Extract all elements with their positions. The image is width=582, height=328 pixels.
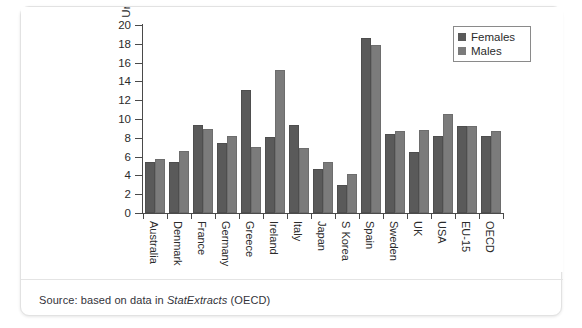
y-tick-label: 12 bbox=[21, 95, 131, 105]
legend-item-males[interactable]: Males bbox=[458, 44, 525, 58]
bar-males-france[interactable] bbox=[203, 129, 213, 213]
bar-females-eu-15[interactable] bbox=[457, 126, 467, 213]
bar-females-italy[interactable] bbox=[289, 125, 299, 213]
y-tick-mark bbox=[135, 119, 143, 120]
bar-males-usa[interactable] bbox=[443, 114, 453, 213]
bar-males-eu-15[interactable] bbox=[467, 126, 477, 213]
bar-males-australia[interactable] bbox=[155, 159, 165, 213]
x-axis-label-oecd: OECD bbox=[483, 221, 496, 272]
y-tick-mark bbox=[135, 175, 143, 176]
x-axis-line bbox=[142, 213, 504, 214]
x-axis-label-uk: UK bbox=[411, 221, 424, 272]
source-note-prefix: Source: based on data in bbox=[39, 294, 164, 306]
bar-females-oecd[interactable] bbox=[481, 136, 491, 213]
x-axis-label-japan: Japan bbox=[315, 221, 328, 272]
bar-males-denmark[interactable] bbox=[179, 151, 189, 213]
y-tick-mark bbox=[135, 194, 143, 195]
y-tick-label-text: 16 bbox=[31, 58, 131, 68]
x-label-text: OECD bbox=[484, 221, 496, 253]
x-label-text: Spain bbox=[364, 221, 376, 249]
x-axis-label-france: France bbox=[195, 221, 208, 272]
x-label-text: Greece bbox=[244, 221, 256, 257]
y-tick-label: 8 bbox=[21, 133, 131, 143]
x-axis-label-germany: Germany bbox=[219, 221, 232, 272]
bar-females-greece[interactable] bbox=[241, 90, 251, 213]
bar-males-japan[interactable] bbox=[323, 162, 333, 213]
x-axis-label-sweden: Sweden bbox=[387, 221, 400, 272]
x-label-text: Ireland bbox=[268, 221, 280, 255]
y-tick-label: 2 bbox=[21, 189, 131, 199]
bar-females-japan[interactable] bbox=[313, 169, 323, 213]
bar-females-sweden[interactable] bbox=[385, 134, 395, 213]
bar-females-spain[interactable] bbox=[361, 38, 371, 213]
figure-card: Unemployed as % of workforce 02468101214… bbox=[20, 6, 562, 316]
legend-swatch-males-icon bbox=[458, 47, 466, 55]
bar-females-germany[interactable] bbox=[217, 143, 227, 213]
y-tick-mark bbox=[135, 44, 143, 45]
x-tick-mark bbox=[167, 214, 168, 219]
legend-swatch-females-icon bbox=[458, 33, 466, 41]
x-tick-mark bbox=[503, 214, 504, 219]
bar-females-ireland[interactable] bbox=[265, 137, 275, 213]
x-label-text: S Korea bbox=[340, 221, 352, 261]
bar-males-s-korea[interactable] bbox=[347, 174, 357, 213]
chart-legend[interactable]: Females Males bbox=[453, 26, 531, 62]
x-label-text: Germany bbox=[220, 221, 232, 266]
x-label-text: Denmark bbox=[172, 221, 184, 266]
x-axis-label-italy: Italy bbox=[291, 221, 304, 272]
x-label-text: EU-15 bbox=[460, 221, 472, 252]
y-tick-mark bbox=[135, 25, 143, 26]
x-axis-label-usa: USA bbox=[435, 221, 448, 272]
source-note-dataset: StatExtracts bbox=[167, 294, 228, 306]
x-label-text: France bbox=[196, 221, 208, 255]
x-tick-mark bbox=[311, 214, 312, 219]
y-tick-label-text: 4 bbox=[31, 170, 131, 180]
y-tick-label-text: 10 bbox=[31, 114, 131, 124]
y-tick-mark bbox=[135, 63, 143, 64]
y-tick-label-text: 20 bbox=[31, 20, 131, 30]
x-tick-mark bbox=[263, 214, 264, 219]
x-tick-mark bbox=[143, 214, 144, 219]
y-tick-label: 14 bbox=[21, 76, 131, 86]
legend-item-females[interactable]: Females bbox=[458, 30, 525, 44]
bar-males-oecd[interactable] bbox=[491, 131, 501, 213]
bar-females-denmark[interactable] bbox=[169, 162, 179, 213]
x-axis-label-eu-15: EU-15 bbox=[459, 221, 472, 272]
bar-males-italy[interactable] bbox=[299, 148, 309, 213]
y-tick-label: 4 bbox=[21, 170, 131, 180]
x-tick-mark bbox=[335, 214, 336, 219]
y-tick-label: 16 bbox=[21, 58, 131, 68]
y-tick-label-text: 2 bbox=[31, 189, 131, 199]
bar-males-greece[interactable] bbox=[251, 147, 261, 213]
bar-males-uk[interactable] bbox=[419, 130, 429, 213]
y-tick-label-text: 14 bbox=[31, 76, 131, 86]
x-label-text: Japan bbox=[316, 221, 328, 251]
y-tick-label-text: 12 bbox=[31, 95, 131, 105]
y-tick-label: 18 bbox=[21, 39, 131, 49]
bar-females-australia[interactable] bbox=[145, 162, 155, 213]
x-axis-label-denmark: Denmark bbox=[171, 221, 184, 272]
x-tick-mark bbox=[407, 214, 408, 219]
bar-males-germany[interactable] bbox=[227, 136, 237, 213]
bar-males-ireland[interactable] bbox=[275, 70, 285, 213]
x-label-text: Australia bbox=[148, 221, 160, 264]
x-tick-mark bbox=[455, 214, 456, 219]
y-tick-label: 20 bbox=[21, 20, 131, 30]
bar-males-sweden[interactable] bbox=[395, 131, 405, 213]
y-tick-mark bbox=[135, 157, 143, 158]
bar-females-usa[interactable] bbox=[433, 136, 443, 213]
y-tick-label-text: 8 bbox=[31, 133, 131, 143]
bar-females-france[interactable] bbox=[193, 125, 203, 213]
bar-males-spain[interactable] bbox=[371, 45, 381, 213]
bar-females-uk[interactable] bbox=[409, 152, 419, 213]
y-tick-mark bbox=[135, 213, 143, 214]
x-tick-mark bbox=[431, 214, 432, 219]
y-tick-mark bbox=[135, 81, 143, 82]
x-tick-mark bbox=[479, 214, 480, 219]
chart-panel: Unemployed as % of workforce 02468101214… bbox=[21, 7, 563, 272]
x-tick-mark bbox=[239, 214, 240, 219]
x-tick-mark bbox=[287, 214, 288, 219]
x-axis-label-greece: Greece bbox=[243, 221, 256, 272]
bar-females-s-korea[interactable] bbox=[337, 185, 347, 213]
x-tick-mark bbox=[383, 214, 384, 219]
